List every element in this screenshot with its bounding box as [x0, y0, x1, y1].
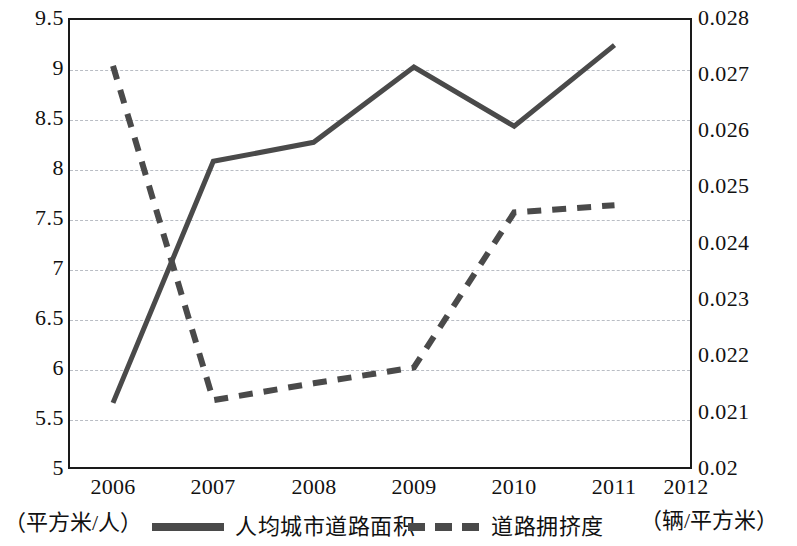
gridline	[70, 120, 690, 121]
right-axis-tick: 0.021	[698, 401, 793, 423]
gridline	[70, 170, 690, 171]
legend-swatch-solid-icon	[150, 510, 226, 544]
left-axis-tick: 7	[2, 257, 64, 279]
right-axis-tick: 0.027	[698, 63, 793, 85]
chart-figure: 9.5 9 8.5 8 7.5 7 6.5 6 5.5 5 0.028 0.02…	[0, 0, 797, 546]
left-axis-tick: 9.5	[2, 7, 64, 29]
x-axis-tick: 2012	[641, 474, 731, 500]
legend-item-road-area: 人均城市道路面积	[150, 510, 415, 544]
gridline	[70, 220, 690, 221]
legend-item-road-congestion: 道路拥挤度	[406, 510, 604, 544]
gridline	[70, 270, 690, 271]
x-axis-tick: 2006	[68, 474, 158, 500]
left-axis-tick: 8	[2, 157, 64, 179]
x-axis-tick: 2008	[269, 474, 359, 500]
legend-label: 人均城市道路面积	[235, 515, 415, 539]
gridlines	[70, 20, 690, 467]
right-axis-tick: 0.023	[698, 288, 793, 310]
gridline	[70, 420, 690, 421]
x-axis-tick: 2009	[369, 474, 459, 500]
left-axis-unit-label: （平方米/人）	[4, 508, 142, 538]
right-axis: 0.028 0.027 0.026 0.025 0.024 0.023 0.02…	[698, 0, 797, 546]
legend-swatch-dashed-icon	[406, 510, 482, 544]
left-axis-tick: 6.5	[2, 307, 64, 329]
right-axis-tick: 0.028	[698, 7, 793, 29]
right-axis-tick: 0.024	[698, 232, 793, 254]
left-axis-tick: 9	[2, 57, 64, 79]
right-axis-tick: 0.022	[698, 344, 793, 366]
gridline	[70, 70, 690, 71]
left-axis-tick: 6	[2, 357, 64, 379]
plot-area	[68, 18, 692, 469]
right-axis-tick: 0.025	[698, 175, 793, 197]
legend-label: 道路拥挤度	[491, 515, 604, 539]
gridline	[70, 320, 690, 321]
left-axis: 9.5 9 8.5 8 7.5 7 6.5 6 5.5 5	[0, 0, 64, 546]
chart-legend: 人均城市道路面积 道路拥挤度	[150, 510, 640, 544]
x-axis: 2006 2007 2008 2009 2010 2011 2012	[0, 474, 797, 504]
left-axis-tick: 8.5	[2, 107, 64, 129]
left-axis-tick: 7.5	[2, 207, 64, 229]
x-axis-tick: 2010	[469, 474, 559, 500]
left-axis-tick: 5.5	[2, 407, 64, 429]
right-axis-tick: 0.026	[698, 119, 793, 141]
gridline	[70, 370, 690, 371]
right-axis-unit-label: （辆/平方米）	[640, 506, 778, 536]
x-axis-tick: 2007	[168, 474, 258, 500]
